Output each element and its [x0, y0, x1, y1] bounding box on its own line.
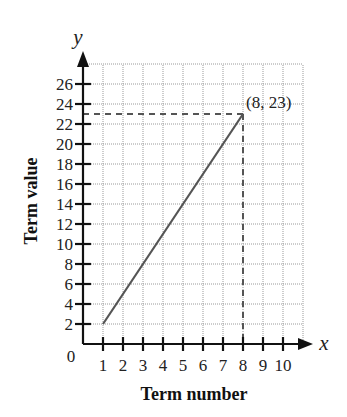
x-tick-label: 8 [239, 356, 248, 375]
y-tick-label: 18 [56, 155, 73, 174]
y-tick-label: 24 [56, 95, 74, 114]
x-tick-label: 1 [99, 356, 108, 375]
x-ticks: 12345678910 [99, 337, 292, 375]
x-tick-label: 5 [179, 356, 188, 375]
x-tick-label: 9 [259, 356, 268, 375]
y-tick-label: 2 [65, 315, 74, 334]
y-tick-label: 16 [56, 175, 73, 194]
point-annotation: (8, 23) [246, 93, 291, 112]
y-tick-label: 10 [56, 235, 73, 254]
y-axis-title: Term value [21, 158, 41, 245]
x-axis-arrow-icon [298, 338, 313, 350]
y-tick-label: 12 [56, 215, 73, 234]
data-series [103, 114, 243, 324]
x-tick-label: 3 [139, 356, 148, 375]
y-axis-arrow-icon [77, 51, 89, 67]
x-tick-label: 10 [275, 356, 292, 375]
y-tick-label: 4 [65, 295, 74, 314]
y-tick-label: 6 [65, 275, 74, 294]
y-tick-label: 8 [65, 255, 74, 274]
y-tick-label: 14 [56, 195, 74, 214]
y-tick-label: 22 [56, 115, 73, 134]
origin-label: 0 [67, 347, 76, 366]
y-variable-label: y [71, 25, 83, 49]
y-tick-label: 20 [56, 135, 73, 154]
x-tick-label: 7 [219, 356, 228, 375]
x-axis-title: Term number [141, 384, 248, 404]
x-tick-label: 6 [199, 356, 208, 375]
x-tick-label: 2 [119, 356, 128, 375]
series-line [103, 114, 243, 324]
line-chart: 12345678910 2468101214161820222426 0 x y… [0, 0, 347, 417]
y-tick-label: 26 [56, 75, 73, 94]
x-variable-label: x [318, 331, 329, 355]
x-tick-label: 4 [159, 356, 168, 375]
